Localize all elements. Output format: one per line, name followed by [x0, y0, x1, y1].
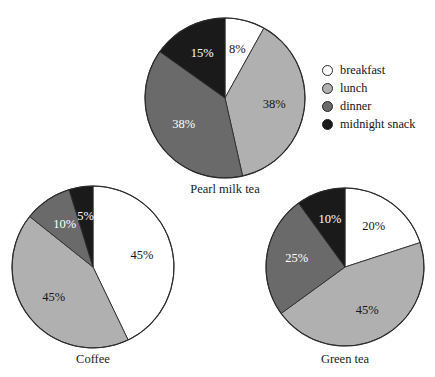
legend-item-breakfast[interactable]: breakfast: [322, 61, 434, 79]
pie-slice-value-label: 15%: [191, 46, 214, 60]
pie-chart-title: Green tea: [255, 352, 435, 367]
pie-chart-coffee: 45%45%10%5%: [6, 180, 180, 354]
legend-item-label: midnight snack: [340, 118, 415, 130]
pie-slice-value-label: 10%: [318, 212, 341, 226]
pie-slice-value-label: 45%: [130, 248, 153, 262]
legend-item-label: dinner: [340, 100, 371, 112]
pie-slice-value-label: 5%: [77, 209, 94, 223]
pie-chart-pearl-milk-tea: 8%38%38%15%: [139, 12, 311, 184]
legend-item-midnight-snack[interactable]: midnight snack: [322, 115, 434, 133]
pie-chart-title: Coffee: [3, 352, 183, 367]
chart-legend: breakfastlunchdinnermidnight snack: [322, 61, 434, 133]
pie-slice-value-label: 38%: [172, 117, 195, 131]
pie-slice-value-label: 8%: [229, 42, 246, 56]
legend-item-dinner[interactable]: dinner: [322, 97, 434, 115]
pie-chart-figure: pp 8%38%38%15%Pearl milk tea45%45%10%5%C…: [0, 0, 435, 377]
pie-slice-value-label: 10%: [53, 217, 76, 231]
legend-item-lunch[interactable]: lunch: [322, 79, 434, 97]
pie-slice-value-label: 45%: [42, 290, 65, 304]
pie-slice-value-label: 38%: [263, 97, 286, 111]
pie-slice-value-label: 45%: [356, 303, 379, 317]
circle-filled-icon: [322, 83, 333, 94]
pie-slice-value-label: 20%: [362, 219, 385, 233]
circle-filled-icon: [322, 119, 333, 130]
circle-filled-icon: [322, 101, 333, 112]
legend-item-label: breakfast: [340, 64, 385, 76]
circle-outline-icon: [322, 65, 333, 76]
pie-slice-value-label: 25%: [285, 251, 308, 265]
legend-item-label: lunch: [340, 82, 367, 94]
pie-chart-green-tea: 20%45%25%10%: [260, 182, 430, 352]
